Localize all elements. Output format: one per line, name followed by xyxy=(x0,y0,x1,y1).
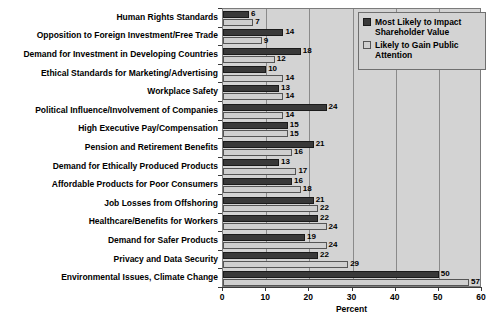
y-axis-tick xyxy=(218,157,222,158)
bar-value-label: 10 xyxy=(268,65,277,73)
x-axis-tick-label: 30 xyxy=(337,293,367,302)
category-label: Ethical Standards for Marketing/Advertis… xyxy=(0,69,218,78)
bar-value-label: 13 xyxy=(281,158,290,166)
category-label: Pension and Retirement Benefits xyxy=(0,143,218,152)
bar-value-label: 16 xyxy=(294,177,303,185)
bar-most-likely-impact xyxy=(223,66,266,73)
bar-value-label: 22 xyxy=(320,204,329,212)
y-axis-tick xyxy=(218,120,222,121)
bar-public-attention xyxy=(223,149,292,156)
bar-value-label: 24 xyxy=(329,241,338,249)
x-axis-tick xyxy=(438,287,439,291)
bar-value-label: 17 xyxy=(298,167,307,175)
bar-public-attention xyxy=(223,205,318,212)
bar-row: 5057 xyxy=(223,269,480,288)
x-axis-tick-label: 40 xyxy=(380,293,410,302)
legend-swatch-dark-icon xyxy=(363,18,371,26)
legend-swatch-light-icon xyxy=(363,41,371,49)
bar-value-label: 29 xyxy=(350,260,359,268)
bar-row: 1924 xyxy=(223,232,480,251)
y-axis-tick xyxy=(218,194,222,195)
bar-public-attention xyxy=(223,112,283,119)
bar-row: 2229 xyxy=(223,251,480,270)
bar-value-label: 18 xyxy=(303,47,312,55)
bar-public-attention xyxy=(223,130,288,137)
bar-value-label: 16 xyxy=(294,148,303,156)
bar-most-likely-impact xyxy=(223,48,301,55)
bar-row: 2122 xyxy=(223,195,480,214)
bar-value-label: 22 xyxy=(320,214,329,222)
bar-value-label: 12 xyxy=(277,55,286,63)
x-axis-tick xyxy=(222,287,223,291)
bar-public-attention xyxy=(223,75,283,82)
bar-value-label: 19 xyxy=(307,233,316,241)
bar-most-likely-impact xyxy=(223,122,288,129)
bar-public-attention xyxy=(223,186,301,193)
x-axis-tick-label: 0 xyxy=(207,293,237,302)
legend-label: Most Likely to Impact Shareholder Value xyxy=(375,17,482,37)
category-label: Demand for Safer Products xyxy=(0,236,218,245)
bar-value-label: 24 xyxy=(329,103,338,111)
bar-value-label: 14 xyxy=(285,92,294,100)
bar-row: 1618 xyxy=(223,176,480,195)
bar-most-likely-impact xyxy=(223,85,279,92)
category-label: Job Losses from Offshoring xyxy=(0,199,218,208)
bar-public-attention xyxy=(223,19,253,26)
bar-value-label: 21 xyxy=(316,140,325,148)
bar-value-label: 14 xyxy=(285,74,294,82)
bar-most-likely-impact xyxy=(223,104,327,111)
bar-public-attention xyxy=(223,223,327,230)
y-axis-tick xyxy=(218,175,222,176)
x-axis-tick xyxy=(395,287,396,291)
bar-public-attention xyxy=(223,168,296,175)
y-axis-tick xyxy=(218,250,222,251)
bar-most-likely-impact xyxy=(223,234,305,241)
legend-entry-public-attention: Likely to Gain Public Attention xyxy=(363,40,482,60)
bar-public-attention xyxy=(223,261,348,268)
y-axis-tick xyxy=(218,268,222,269)
bar-most-likely-impact xyxy=(223,29,283,36)
category-label: Political Influence/Involvement of Compa… xyxy=(0,106,218,115)
category-label: Healthcare/Benefits for Workers xyxy=(0,217,218,226)
horizontal-bar-chart: Human Rights StandardsOpposition to Fore… xyxy=(0,0,491,321)
x-axis-tick xyxy=(265,287,266,291)
bar-value-label: 9 xyxy=(264,37,268,45)
x-axis-tick-label: 20 xyxy=(293,293,323,302)
bar-most-likely-impact xyxy=(223,178,292,185)
category-label: Demand for Investment in Developing Coun… xyxy=(0,50,218,59)
bar-row: 2116 xyxy=(223,139,480,158)
bar-value-label: 15 xyxy=(290,130,299,138)
bar-public-attention xyxy=(223,93,283,100)
bar-value-label: 18 xyxy=(303,185,312,193)
x-axis-title: Percent xyxy=(222,305,481,314)
bar-value-label: 15 xyxy=(290,121,299,129)
y-axis-tick xyxy=(218,287,222,288)
bar-most-likely-impact xyxy=(223,252,318,259)
y-axis-tick xyxy=(218,8,222,9)
category-label: Human Rights Standards xyxy=(0,13,218,22)
category-label: Demand for Ethically Produced Products xyxy=(0,162,218,171)
x-axis-tick xyxy=(481,287,482,291)
bar-value-label: 14 xyxy=(285,28,294,36)
bar-public-attention xyxy=(223,242,327,249)
x-axis-tick xyxy=(308,287,309,291)
bar-public-attention xyxy=(223,56,275,63)
category-label: Affordable Products for Poor Consumers xyxy=(0,180,218,189)
bar-most-likely-impact xyxy=(223,197,314,204)
bar-row: 1317 xyxy=(223,158,480,177)
y-axis-tick xyxy=(218,45,222,46)
category-label: Opposition to Foreign Investment/Free Tr… xyxy=(0,31,218,40)
x-axis-tick-label: 50 xyxy=(423,293,453,302)
x-axis-tick-label: 10 xyxy=(250,293,280,302)
bar-most-likely-impact xyxy=(223,271,439,278)
bar-value-label: 50 xyxy=(441,270,450,278)
bar-row: 1515 xyxy=(223,121,480,140)
category-label: High Executive Pay/Compensation xyxy=(0,124,218,133)
bar-row: 2414 xyxy=(223,102,480,121)
legend-label: Likely to Gain Public Attention xyxy=(375,40,482,60)
category-label: Privacy and Data Security xyxy=(0,255,218,264)
bar-value-label: 22 xyxy=(320,251,329,259)
bar-row: 1314 xyxy=(223,83,480,102)
bar-value-label: 14 xyxy=(285,111,294,119)
bar-value-label: 24 xyxy=(329,223,338,231)
